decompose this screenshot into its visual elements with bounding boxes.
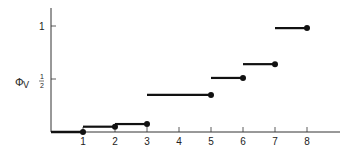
step-endpoint-dot [240,75,246,81]
step-endpoint-dot [80,129,86,135]
x-tick-label: 6 [240,136,246,147]
step-endpoint-dot [144,121,150,127]
step-function-chart: 12345678 Φ V 1 1 2 [0,0,362,156]
x-tick-label: 2 [112,136,118,147]
y-tick-label-half-den: 2 [40,82,44,89]
step-endpoint-dot [208,92,214,98]
axis-labels: Φ V 1 1 2 [15,21,45,90]
step-endpoint-dot [272,61,278,67]
step-endpoint-dot [304,25,310,31]
x-tick-label: 3 [144,136,150,147]
x-tick-label: 8 [304,136,310,147]
step-series [51,25,310,135]
x-tick-label: 4 [176,136,182,147]
y-tick-label-1: 1 [39,21,45,32]
x-tick-label: 1 [80,136,86,147]
y-tick-label-half-num: 1 [40,73,44,80]
x-tick-label: 5 [208,136,214,147]
x-tick-label: 7 [272,136,278,147]
y-axis-label-sub: V [23,80,30,90]
